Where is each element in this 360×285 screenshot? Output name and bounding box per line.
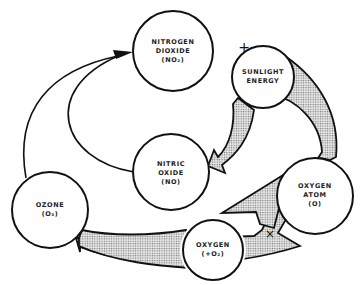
no2-label-line3: (NO₂) xyxy=(162,56,185,64)
oatom-label-line2: ATOM xyxy=(303,191,326,199)
no2-label-line2: DIOXIDE xyxy=(156,47,191,55)
node-sunlight-energy: SUNLIGHT ENERGY xyxy=(232,46,294,108)
o2-label-line1: OXYGEN xyxy=(196,241,230,249)
nitrogen-ozone-cycle-diagram: NITROGEN DIOXIDE (NO₂) + SUNLIGHT ENERGY… xyxy=(0,0,360,285)
oatom-label-line3: (O) xyxy=(308,200,321,208)
sunlight-label-line1: SUNLIGHT xyxy=(242,68,284,76)
node-oxygen-atom: OXYGEN ATOM (O) xyxy=(277,158,353,234)
no-label-line1: NITRIC xyxy=(157,160,185,168)
node-nitric-oxide: NITRIC OXIDE (NO) xyxy=(133,134,209,210)
sunlight-to-no-arrow xyxy=(208,98,254,173)
oatom-label-line1: OXYGEN xyxy=(298,182,332,190)
ozone-label-line2: (O₃) xyxy=(42,210,59,218)
no-label-line3: (NO) xyxy=(161,178,180,186)
no-label-line2: OXIDE xyxy=(158,169,184,177)
band-to-ozone-arrow xyxy=(79,230,190,268)
sunlight-label-line2: ENERGY xyxy=(247,77,280,85)
node-ozone: OZONE (O₃) xyxy=(12,172,88,248)
o2-label-line2: (+O₂) xyxy=(202,250,225,258)
node-oxygen-o2: OXYGEN (+O₂) xyxy=(180,217,246,283)
cross-operator: × xyxy=(265,227,275,241)
ozone-to-no2-line xyxy=(24,56,118,178)
no-to-no2-line xyxy=(68,56,134,172)
no2-label-line1: NITROGEN xyxy=(152,38,195,46)
ozone-label-line1: OZONE xyxy=(36,201,65,209)
node-nitrogen-dioxide: NITROGEN DIOXIDE (NO₂) xyxy=(133,11,213,91)
arrowhead-to-no2-icon xyxy=(113,50,133,59)
